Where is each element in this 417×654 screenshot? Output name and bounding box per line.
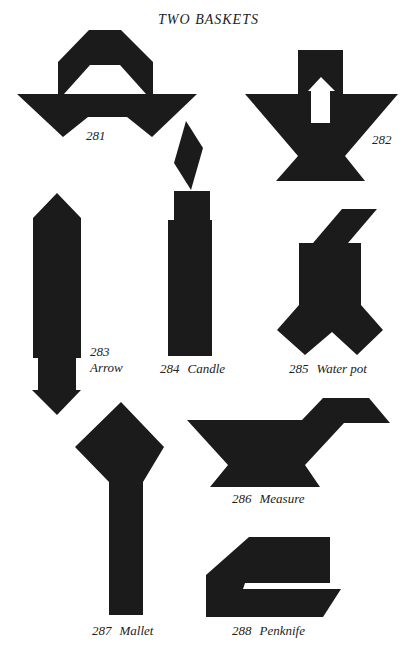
tangram-figure-283-arrow	[32, 193, 81, 415]
figure-name: Penknife	[260, 623, 305, 638]
figure-name: Measure	[260, 491, 305, 506]
figure-number: 288	[232, 623, 252, 638]
tangram-figure-282	[245, 50, 398, 181]
tangram-figure-288-penknife	[206, 537, 341, 617]
figure-number: 285	[289, 361, 309, 376]
figure-number: 284	[160, 361, 180, 376]
figure-name: Mallet	[120, 623, 154, 638]
figure-number: 286	[232, 491, 252, 506]
figure-label-282: 282	[372, 132, 392, 148]
figure-name: Water pot	[317, 361, 367, 376]
figure-label-284: 284Candle	[160, 361, 225, 377]
tangram-figure-286-measure	[187, 398, 390, 487]
figure-name: Arrow	[90, 360, 123, 376]
figure-number: 287	[92, 623, 112, 638]
tangram-figure-285-water-pot	[277, 209, 383, 355]
figure-number: 281	[86, 128, 106, 143]
figure-label-283: 283 Arrow	[90, 344, 123, 376]
figure-label-287: 287Mallet	[92, 623, 153, 639]
tangram-figure-284-candle	[168, 121, 212, 356]
tangram-figure-287-mallet	[75, 402, 164, 615]
figure-name: Candle	[188, 361, 226, 376]
figure-label-281: 281	[86, 128, 106, 144]
figure-label-286: 286Measure	[232, 491, 305, 507]
figure-label-288: 288Penknife	[232, 623, 305, 639]
tangram-figure-281	[17, 30, 197, 137]
figure-number: 282	[372, 132, 392, 147]
figure-number: 283	[90, 344, 123, 360]
figure-label-285: 285Water pot	[289, 361, 367, 377]
